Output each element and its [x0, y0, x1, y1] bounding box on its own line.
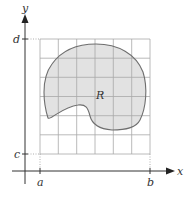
y-axis-label: y: [21, 2, 29, 15]
region-diagram: y x d c a b R: [0, 0, 193, 198]
x-axis-arrow-icon: [166, 168, 175, 175]
grid: [40, 39, 150, 154]
y-axis-arrow-icon: [22, 14, 29, 23]
region-label: R: [95, 89, 104, 102]
tick-label-d: d: [13, 33, 20, 46]
tick-label-a: a: [37, 176, 44, 189]
tick-label-c: c: [14, 148, 20, 161]
x-axis-label: x: [177, 165, 184, 178]
tick-label-b: b: [147, 176, 154, 189]
